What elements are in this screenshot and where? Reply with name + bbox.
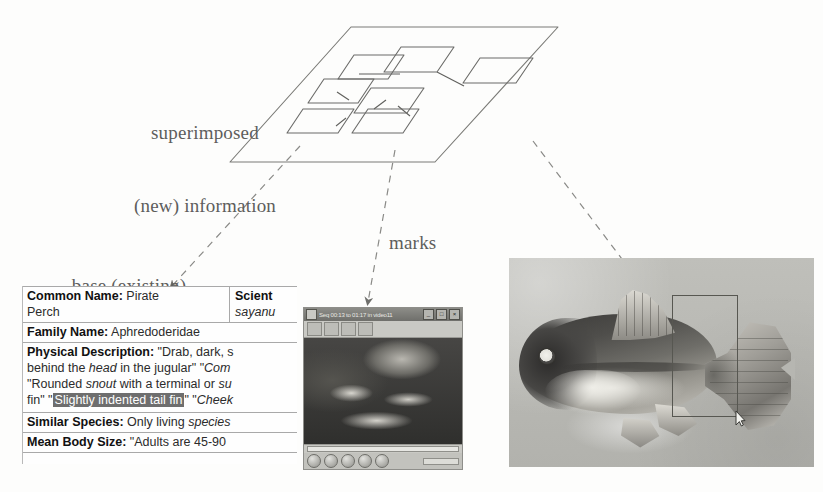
doc-value-similar-species-italic: species: [188, 415, 230, 429]
stop-button-icon[interactable]: [341, 454, 355, 468]
player-toolbar[interactable]: [304, 321, 462, 338]
physdesc-l2-head: head: [89, 361, 117, 375]
fish-photograph[interactable]: [509, 258, 814, 467]
physdesc-l2-b: in the jugular" ": [117, 361, 204, 375]
doc-physdesc-line3: "Rounded snout with a terminal or su: [27, 376, 297, 392]
next-button-icon[interactable]: [375, 454, 389, 468]
doc-scientific-name-cell: Scient sayanu: [235, 288, 275, 320]
maximize-button[interactable]: □: [436, 309, 447, 320]
doc-label-physical-description: Physical Description:: [27, 345, 154, 359]
fish-belly: [545, 370, 641, 414]
player-title-bar[interactable]: Seq 00:13 to 01:17 in video11 _ □ ×: [304, 308, 462, 321]
highlighted-mark-slightly-indented-tail-fin[interactable]: Slightly indented tail fin: [53, 393, 185, 407]
player-transport-controls[interactable]: [304, 453, 462, 469]
doc-label-similar-species: Similar Species:: [27, 415, 124, 429]
player-app-icon: [306, 309, 317, 320]
doc-row-mean-body-size: Mean Body Size: "Adults are 45-90: [23, 433, 297, 453]
doc-value-family-name: Aphredoderidae: [108, 325, 200, 339]
physdesc-l4-cheek: Cheek: [197, 393, 233, 407]
seek-track[interactable]: [307, 446, 459, 452]
species-fact-sheet[interactable]: Common Name: Pirate Perch Scient sayanu …: [22, 286, 297, 464]
label-superimposed-line1: superimposed: [105, 121, 305, 145]
doc-label-mean-body-size: Mean Body Size:: [27, 435, 126, 449]
label-superimposed-line2: (new) information: [105, 194, 305, 218]
doc-label-common-name: Common Name:: [27, 289, 123, 303]
doc-value-mean-body-size: "Adults are 45-90: [126, 435, 226, 449]
doc-value-common-name: Pirate: [123, 289, 159, 303]
open-tool-icon[interactable]: [307, 322, 322, 336]
fish-eye: [538, 348, 556, 365]
physdesc-l3-b: with a terminal or: [116, 377, 218, 391]
mouse-cursor-icon: [735, 410, 746, 427]
close-button[interactable]: ×: [449, 309, 460, 320]
doc-value-physical-description: "Drab, dark, s: [154, 345, 233, 359]
doc-row-family-name: Family Name: Aphredoderidae: [23, 323, 297, 343]
label-marks: marks: [389, 231, 436, 255]
doc-column-divider: [229, 287, 230, 322]
physdesc-l4-a: fin" ": [27, 393, 53, 407]
doc-row-similar-species: Similar Species: Only living species: [23, 413, 297, 433]
doc-physdesc-line2: behind the head in the jugular" "Com: [27, 360, 297, 376]
node-links: [336, 72, 464, 126]
doc-label-family-name: Family Name:: [27, 325, 108, 339]
doc-row-common-name: Common Name: Pirate Perch Scient sayanu: [23, 286, 297, 323]
node-1: [338, 55, 404, 79]
node-4: [308, 79, 374, 103]
prev-button-icon[interactable]: [358, 454, 372, 468]
physdesc-l3-snout: snout: [86, 377, 117, 391]
doc-value-scientific-name: sayanu: [235, 305, 275, 319]
doc-physdesc-line1: Physical Description: "Drab, dark, s: [27, 344, 297, 360]
doc-value-similar-species: Only living: [124, 415, 189, 429]
physdesc-l2-a: behind the: [27, 361, 89, 375]
node-2: [384, 47, 454, 72]
node-3: [463, 58, 533, 83]
record-tool-icon[interactable]: [324, 322, 339, 336]
doc-physdesc-line4: fin" "Slightly indented tail fin" "Cheek: [27, 392, 297, 408]
play-button-icon[interactable]: [307, 454, 321, 468]
video-player-window[interactable]: Seq 00:13 to 01:17 in video11 _ □ ×: [303, 307, 463, 470]
player-video-surface[interactable]: [304, 338, 462, 444]
video-frame-image: [304, 338, 462, 444]
physdesc-l3-a: "Rounded: [27, 377, 86, 391]
minimize-button[interactable]: _: [423, 309, 434, 320]
pause-button-icon[interactable]: [324, 454, 338, 468]
physdesc-l2-com: Com: [204, 361, 230, 375]
list-tool-icon[interactable]: [358, 322, 373, 336]
player-title: Seq 00:13 to 01:17 in video11: [319, 312, 421, 318]
volume-slider[interactable]: [423, 458, 459, 465]
tail-fin-selection-rectangle[interactable]: [672, 295, 738, 417]
figure-canvas: superimposed (new) information base (exi…: [0, 0, 823, 492]
player-seek-bar[interactable]: [304, 444, 462, 453]
physdesc-l4-b: " ": [184, 393, 196, 407]
doc-row-physical-description: Physical Description: "Drab, dark, s beh…: [23, 343, 297, 413]
physdesc-l3-su: su: [218, 377, 231, 391]
doc-label-scientific-name: Scient: [235, 289, 273, 303]
annotate-tool-icon[interactable]: [341, 322, 356, 336]
